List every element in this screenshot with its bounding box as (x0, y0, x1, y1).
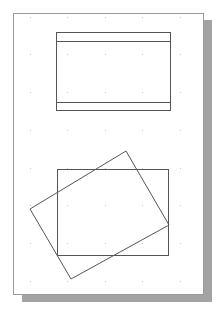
grid-dot (30, 281, 31, 282)
grid-dot (142, 54, 143, 55)
grid-dot (67, 243, 68, 244)
grid-dot (105, 130, 106, 131)
grid-dot (30, 17, 31, 18)
grid-dot (67, 54, 68, 55)
grid-dot (180, 130, 181, 131)
grid-dot (180, 205, 181, 206)
grid-dot (105, 17, 106, 18)
grid-dot (142, 281, 143, 282)
grid-dot (142, 243, 143, 244)
grid-dot (142, 168, 143, 169)
grid-dot (105, 54, 106, 55)
grid-dot (30, 92, 31, 93)
grid-dot (67, 130, 68, 131)
grid-dot (105, 243, 106, 244)
grid-dot (142, 17, 143, 18)
grid-dot (30, 243, 31, 244)
grid-dot (30, 130, 31, 131)
grid-dot (105, 205, 106, 206)
drawing-canvas (0, 0, 218, 309)
grid-dot (67, 92, 68, 93)
grid-dot (142, 205, 143, 206)
grid-dot (180, 54, 181, 55)
grid-dot (67, 168, 68, 169)
grid-dot (105, 92, 106, 93)
grid-dot (142, 92, 143, 93)
grid-dot (142, 130, 143, 131)
grid-dot (30, 54, 31, 55)
grid-dot (180, 243, 181, 244)
grid-dot (180, 92, 181, 93)
grid-dot (30, 205, 31, 206)
grid-dot (180, 17, 181, 18)
grid-dot (180, 168, 181, 169)
grid-dot (67, 205, 68, 206)
page-drawing (0, 0, 218, 309)
grid-dot (105, 168, 106, 169)
grid-dot (67, 281, 68, 282)
grid-dot (180, 281, 181, 282)
grid-dot (105, 281, 106, 282)
page-sheet (14, 14, 204, 295)
grid-dot (67, 17, 68, 18)
grid-dot (30, 168, 31, 169)
